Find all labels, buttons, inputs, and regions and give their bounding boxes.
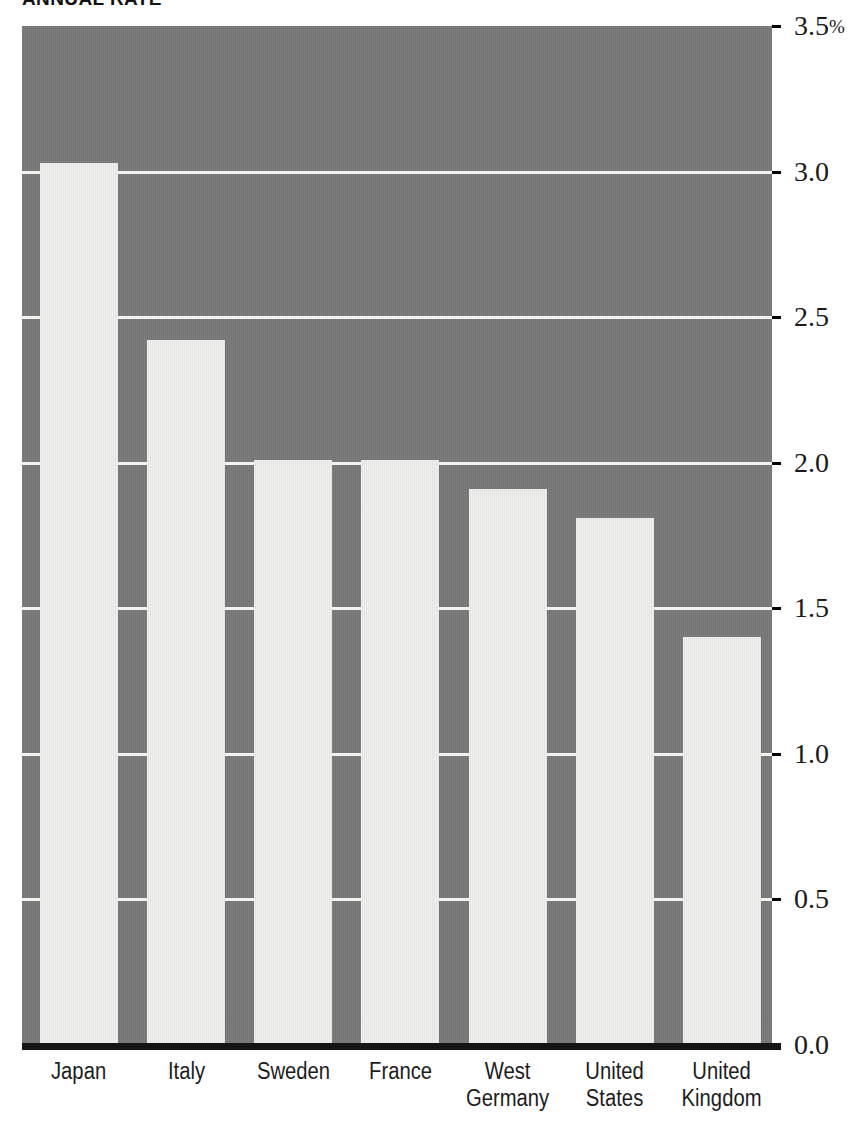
bar — [147, 340, 225, 1045]
x-tick-label: United Kingdom — [675, 1058, 769, 1112]
bar — [361, 460, 439, 1045]
bar — [576, 518, 654, 1045]
y-tick-label: 3.0 — [794, 158, 829, 186]
y-tick-label: 1.5 — [794, 594, 829, 622]
y-tick-mark — [772, 898, 781, 901]
x-tick-label: Italy — [139, 1058, 233, 1085]
bar — [40, 163, 118, 1045]
x-tick-label: Sweden — [246, 1058, 340, 1085]
gridline — [22, 316, 772, 319]
y-tick-label: 0.5 — [794, 885, 829, 913]
chart-plot-area — [22, 26, 772, 1045]
y-tick-mark — [772, 25, 781, 28]
x-tick-label: West Germany — [460, 1058, 554, 1112]
x-axis-line — [22, 1043, 781, 1050]
y-tick-label: 0.0 — [794, 1031, 829, 1059]
y-tick-mark — [772, 462, 781, 465]
y-tick-mark — [772, 607, 781, 610]
x-tick-label: Japan — [32, 1058, 126, 1085]
bar — [254, 460, 332, 1045]
y-tick-label: 1.0 — [794, 740, 829, 768]
y-tick-label: 2.5 — [794, 303, 829, 331]
y-tick-mark — [772, 316, 781, 319]
x-tick-label: United States — [568, 1058, 662, 1112]
page-title: ANNUAL RATE — [22, 0, 162, 8]
y-tick-label: 3.5% — [794, 12, 845, 41]
y-tick-label: 2.0 — [794, 449, 829, 477]
bar — [683, 637, 761, 1045]
gridline — [22, 171, 772, 174]
bar — [469, 489, 547, 1045]
y-tick-mark — [772, 753, 781, 756]
y-tick-mark — [772, 171, 781, 174]
x-tick-label: France — [353, 1058, 447, 1085]
